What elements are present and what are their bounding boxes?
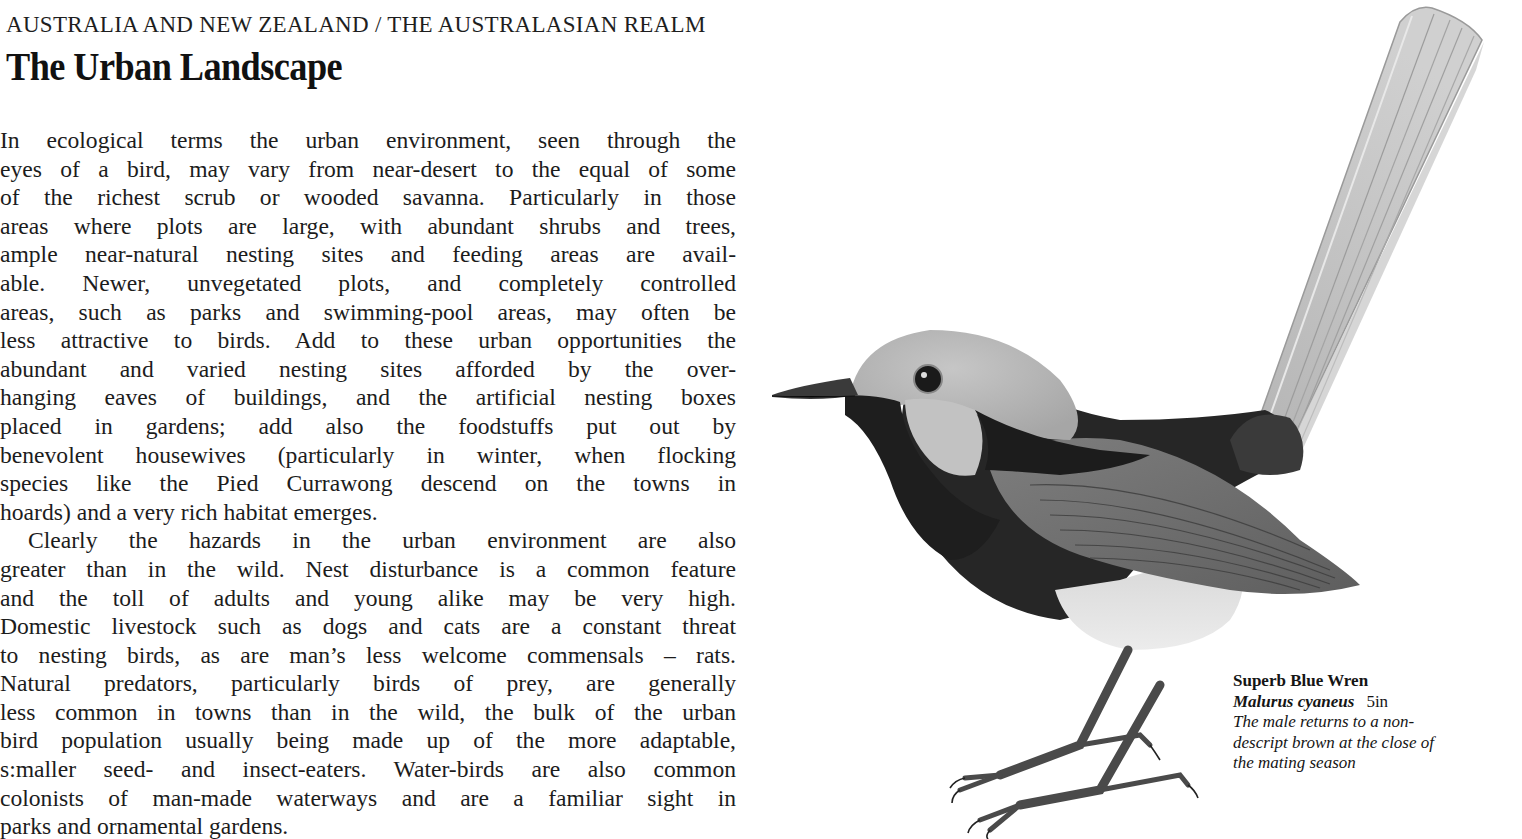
running-head: AUSTRALIA AND NEW ZEALAND / THE AUSTRALA…: [6, 12, 706, 38]
text-line: hoards) and a very rich habitat emerges.: [0, 498, 736, 527]
caption-latin-row: Malurus cyaneus5in: [1233, 692, 1518, 713]
text-line: s:maller seed- and insect-eaters. Water-…: [0, 755, 736, 784]
caption-latin-name: Malurus cyaneus: [1233, 692, 1354, 711]
caption-description-line: descript brown at the close of: [1233, 733, 1518, 754]
text-line: Clearly the hazards in the urban environ…: [0, 526, 736, 555]
text-line: benevolent housewives (particularly in w…: [0, 441, 736, 470]
eye: [914, 365, 942, 393]
text-line: In ecological terms the urban environmen…: [0, 126, 736, 155]
text-line: of the richest scrub or wooded savanna. …: [0, 183, 736, 212]
caption-common-name: Superb Blue Wren: [1233, 671, 1518, 692]
text-line: species like the Pied Currawong descend …: [0, 469, 736, 498]
text-line: colonists of man-made waterways and are …: [0, 784, 736, 813]
text-line: eyes of a bird, may vary from near-deser…: [0, 155, 736, 184]
text-line: placed in gardens; add also the foodstuf…: [0, 412, 736, 441]
legs: [960, 650, 1188, 830]
text-line: areas where plots are large, with abunda…: [0, 212, 736, 241]
figure-caption: Superb Blue Wren Malurus cyaneus5in The …: [1233, 671, 1518, 774]
text-line: to nesting birds, as are man’s less welc…: [0, 641, 736, 670]
tail: [1255, 7, 1484, 455]
text-line: Natural predators, particularly birds of…: [0, 669, 736, 698]
text-line: able. Newer, unvegetated plots, and comp…: [0, 269, 736, 298]
caption-size: 5in: [1354, 692, 1388, 711]
text-line: and the toll of adults and young alike m…: [0, 584, 736, 613]
text-line: Domestic livestock such as dogs and cats…: [0, 612, 736, 641]
text-line: abundant and varied nesting sites afford…: [0, 355, 736, 384]
text-line: greater than in the wild. Nest disturban…: [0, 555, 736, 584]
caption-description-line: the mating season: [1233, 753, 1518, 774]
text-line: bird population usually being made up of…: [0, 726, 736, 755]
text-line: hanging eaves of buildings, and the arti…: [0, 383, 736, 412]
text-line: less attractive to birds. Add to these u…: [0, 326, 736, 355]
text-line: parks and ornamental gardens.: [0, 812, 736, 839]
text-line: less common in towns than in the wild, t…: [0, 698, 736, 727]
caption-description-line: The male returns to a non-: [1233, 712, 1518, 733]
body-text: In ecological terms the urban environmen…: [0, 126, 736, 839]
text-line: areas, such as parks and swimming-pool a…: [0, 298, 736, 327]
page-title: The Urban Landscape: [6, 44, 342, 89]
text-line: ample near-natural nesting sites and fee…: [0, 240, 736, 269]
